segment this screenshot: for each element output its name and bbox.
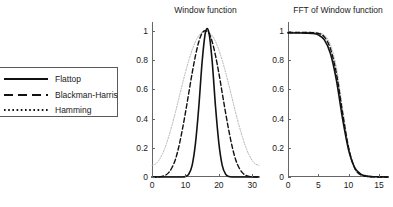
chart-fft-of-window-function: FFT of Window function 00.20.40.60.81051… (288, 22, 388, 177)
plot-curves (288, 22, 388, 177)
curve-hamming (288, 32, 388, 177)
x-tick-label: 0 (150, 180, 155, 190)
chart-title: FFT of Window function (288, 5, 388, 15)
y-tick-label: 0.6 (136, 84, 148, 94)
curve-hamming (152, 31, 259, 166)
legend-label-blackman-harris: Blackman-Harris (55, 91, 118, 100)
dashed-line-icon (3, 88, 49, 102)
y-tick-label: 0.4 (136, 114, 148, 124)
y-tick-label: 1 (143, 26, 148, 36)
x-tick-mark (379, 174, 380, 177)
y-tick-mark (152, 60, 155, 61)
x-tick-mark (288, 174, 289, 177)
y-tick-mark (288, 148, 291, 149)
y-tick-mark (152, 31, 155, 32)
x-tick-mark (219, 174, 220, 177)
x-tick-label: 15 (374, 180, 383, 190)
x-tick-mark (318, 174, 319, 177)
y-tick-mark (288, 31, 291, 32)
curve-blackman-harris (288, 33, 388, 177)
x-tick-label: 10 (344, 180, 353, 190)
y-tick-mark (288, 89, 291, 90)
y-tick-label: 0 (143, 172, 148, 182)
y-tick-label: 0.8 (272, 55, 284, 65)
legend-label-flattop: Flattop (55, 75, 81, 84)
chart-window-function: Window function 00.20.40.60.810102030 (152, 22, 259, 177)
y-tick-mark (152, 89, 155, 90)
dotted-line-icon (3, 103, 49, 117)
x-tick-mark (152, 174, 153, 177)
y-tick-mark (288, 60, 291, 61)
x-tick-mark (349, 174, 350, 177)
x-tick-mark (185, 174, 186, 177)
matlab-figure: Flattop Blackman-Harris Hamming Window f… (0, 0, 393, 207)
x-tick-label: 0 (286, 180, 291, 190)
solid-line-icon (3, 72, 49, 86)
legend: Flattop Blackman-Harris Hamming (0, 67, 118, 117)
chart-title: Window function (152, 5, 259, 15)
legend-entry-blackman-harris: Blackman-Harris (0, 87, 119, 103)
x-tick-label: 10 (181, 180, 190, 190)
curve-blackman-harris (152, 31, 259, 177)
y-tick-label: 0.8 (136, 55, 148, 65)
curve-flattop (288, 33, 388, 177)
y-tick-label: 0.4 (272, 114, 284, 124)
y-tick-label: 0 (279, 172, 284, 182)
y-tick-mark (152, 177, 155, 178)
y-tick-mark (152, 148, 155, 149)
y-tick-label: 0.2 (272, 143, 284, 153)
plot-curves (152, 22, 259, 177)
y-tick-mark (288, 177, 291, 178)
x-tick-mark (252, 174, 253, 177)
x-tick-label: 30 (248, 180, 257, 190)
y-tick-mark (288, 119, 291, 120)
x-tick-label: 20 (214, 180, 223, 190)
x-tick-label: 5 (316, 180, 321, 190)
curve-flattop (152, 29, 259, 177)
legend-entry-hamming: Hamming (0, 102, 119, 118)
y-tick-label: 0.6 (272, 84, 284, 94)
y-tick-label: 1 (279, 26, 284, 36)
legend-label-hamming: Hamming (55, 106, 91, 115)
legend-entry-flattop: Flattop (0, 71, 119, 87)
y-tick-mark (152, 119, 155, 120)
y-tick-label: 0.2 (136, 143, 148, 153)
